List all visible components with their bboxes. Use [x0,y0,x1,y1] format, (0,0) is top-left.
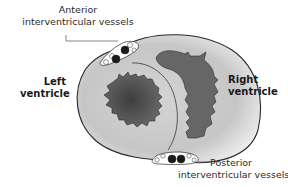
posterior-label-line1: Posterior [178,157,288,169]
left-ventricle-label: Left ventricle [20,76,66,100]
left-ventricle-label-line2: ventricle [20,88,66,100]
right-ventricle-label: Right ventricle [228,74,278,98]
anterior-label-line1: Anterior [18,4,138,16]
anterior-leader-line [66,35,118,41]
posterior-label-line2: interventricular vessels [178,169,288,181]
right-ventricle-label-line2: ventricle [228,86,278,98]
posterior-label: Posterior interventricular vessels [178,157,288,181]
right-ventricle-label-line1: Right [228,74,278,86]
anterior-label: Anterior interventricular vessels [18,4,138,28]
anterior-label-line2: interventricular vessels [18,16,138,28]
left-ventricle-label-line1: Left [20,76,66,88]
